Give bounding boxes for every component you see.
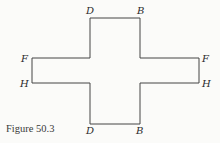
label-top-d: D: [85, 5, 94, 16]
label-right-f: F: [201, 53, 210, 64]
figure-caption: Figure 50.3: [6, 123, 54, 134]
label-bottom-d: D: [85, 125, 94, 136]
label-bottom-b: B: [135, 125, 143, 136]
label-left-h: H: [19, 78, 29, 89]
label-left-f: F: [20, 53, 29, 64]
cross-diagram: D B F H F H D B Figure 50.3: [0, 0, 220, 143]
label-top-b: B: [136, 5, 144, 16]
label-right-h: H: [201, 78, 211, 89]
cross-outline: [32, 18, 199, 124]
